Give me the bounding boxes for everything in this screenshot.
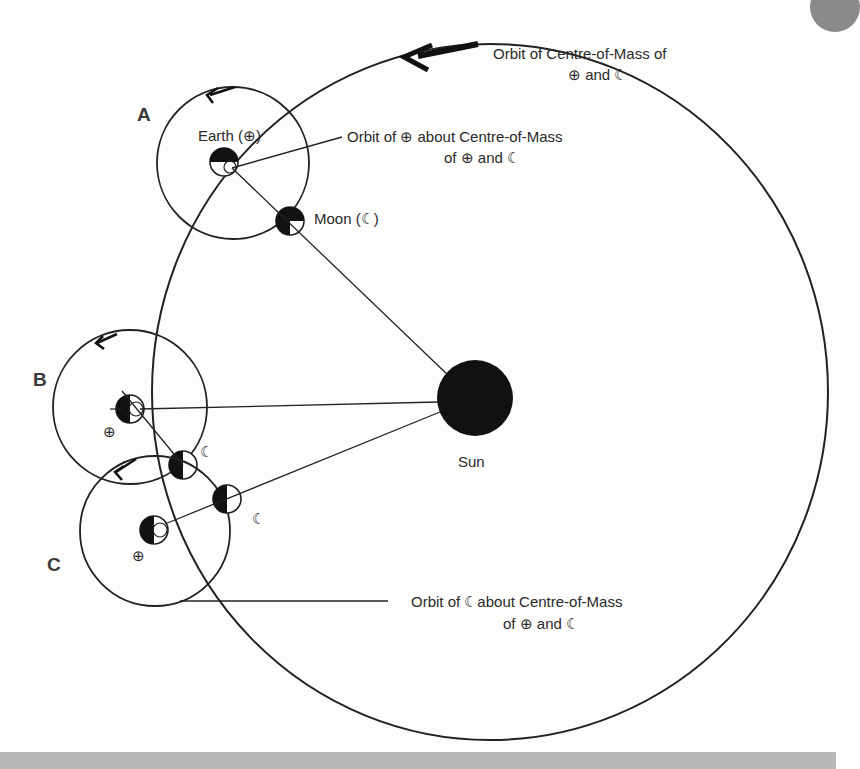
label-earth: Earth (⊕) bbox=[198, 127, 261, 144]
earth-symbol-c: ⊕ bbox=[132, 547, 145, 564]
label-moon-orbit-line1: Orbit of ☾about Centre-of-Mass bbox=[411, 593, 622, 610]
label-earth-orbit-line1: Orbit of ⊕ about Centre-of-Mass bbox=[347, 128, 563, 145]
moon-symbol-b: ☾ bbox=[200, 443, 213, 460]
position-b bbox=[53, 330, 438, 484]
label-sun: Sun bbox=[458, 453, 485, 470]
sun bbox=[437, 360, 513, 436]
position-c bbox=[80, 412, 440, 606]
label-moon-orbit-line2: of ⊕ and ☾ bbox=[503, 615, 579, 632]
earth-symbol-b: ⊕ bbox=[103, 423, 116, 440]
label-earth-orbit-line2: of ⊕ and ☾ bbox=[444, 149, 520, 166]
moon-symbol-c: ☾ bbox=[252, 510, 265, 527]
page-edge-strip bbox=[0, 752, 836, 769]
label-position-b: B bbox=[33, 369, 47, 390]
label-moon: Moon (☾) bbox=[314, 210, 379, 227]
label-position-a: A bbox=[137, 104, 151, 125]
label-position-c: C bbox=[47, 554, 61, 575]
earth-a bbox=[210, 148, 238, 176]
label-com-orbit-line1: Orbit of Centre-of-Mass of bbox=[493, 45, 667, 62]
moon-a bbox=[276, 207, 304, 235]
earth-c bbox=[140, 516, 168, 544]
label-com-orbit-line2: ⊕ and ☾ bbox=[568, 66, 627, 83]
